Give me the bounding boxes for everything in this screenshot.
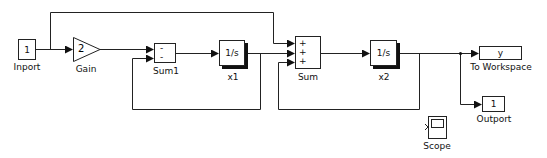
inport-label: Inport [14, 62, 41, 72]
connection-lines [0, 0, 547, 158]
sum1-sign-2: - [160, 53, 163, 62]
integrator-x1-block[interactable]: 1/s [219, 40, 245, 66]
junction-dot [459, 52, 462, 55]
sum-label: Sum [298, 72, 318, 82]
integrator-x2-label: x2 [378, 72, 389, 82]
sum1-label: Sum1 [153, 66, 179, 76]
gain-label: Gain [76, 64, 97, 74]
outport-label: Outport [477, 114, 512, 124]
integrator-x1-label: x1 [227, 72, 238, 82]
gain-value: 2 [78, 43, 84, 54]
outport-number: 1 [491, 99, 497, 109]
integrator-x2-block[interactable]: 1/s [370, 40, 397, 66]
to-workspace-variable: y [498, 48, 503, 58]
integrator-x2-transfer: 1/s [377, 48, 390, 58]
scope-label: Scope [423, 141, 450, 151]
integrator-x1-transfer: 1/s [225, 48, 238, 58]
sum-sign-3: + [299, 57, 307, 66]
to-workspace-label: To Workspace [470, 62, 532, 72]
to-workspace-block[interactable]: y [479, 46, 522, 60]
outport-block[interactable]: 1 [482, 96, 505, 112]
sum1-block[interactable]: - - [154, 43, 176, 63]
inport-block[interactable]: 1 [18, 39, 36, 60]
sum-block[interactable]: + + + [295, 36, 321, 69]
inport-number: 1 [24, 45, 30, 55]
scope-icon[interactable] [425, 117, 447, 139]
